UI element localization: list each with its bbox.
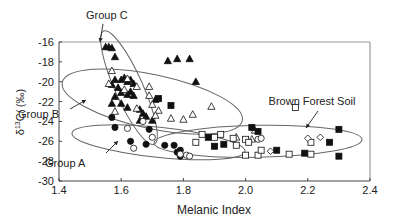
group-a-label: Group A	[45, 157, 86, 169]
open-circle-marker	[140, 118, 146, 124]
filled-triangle-marker	[108, 100, 115, 107]
open-triangle-marker	[167, 115, 174, 122]
scatter-chart: 1.41.61.82.02.22.4-16-18-20-22-24-26-28-…	[0, 0, 411, 224]
plot-frame	[59, 42, 370, 181]
open-circle-marker	[177, 151, 183, 157]
open-triangle-marker	[111, 108, 118, 115]
y-tick-label: -18	[38, 56, 54, 68]
axis-ticks: 1.41.61.82.02.22.4-16-18-20-22-24-26-28-…	[38, 36, 378, 196]
open-circle-marker	[187, 153, 193, 159]
y-tick-label: -20	[38, 76, 54, 88]
open-square-marker	[258, 147, 264, 153]
x-tick-label: 1.8	[176, 184, 191, 196]
filled-circle-marker	[109, 114, 115, 120]
filled-square-marker	[336, 153, 342, 159]
filled-triangle-marker	[174, 55, 181, 62]
open-diamond-marker	[317, 134, 324, 141]
filled-square-marker	[249, 124, 255, 130]
filled-square-marker	[168, 103, 174, 109]
open-circle-marker	[258, 135, 264, 141]
filled-circle-marker	[143, 141, 149, 147]
annotations: Group CGroup BGroup ABrown Forest Soil	[18, 9, 355, 169]
filled-triangle-marker	[124, 104, 131, 111]
x-tick-label: 1.6	[114, 184, 129, 196]
filled-square-marker	[255, 128, 261, 134]
filled-triangle-marker	[111, 53, 118, 60]
arrow-head-icon	[306, 123, 310, 128]
chart-canvas: 1.41.61.82.02.22.4-16-18-20-22-24-26-28-…	[0, 0, 411, 224]
open-triangle-marker	[189, 111, 196, 118]
x-axis-label: Melanic Index	[177, 203, 251, 217]
filled-circle-marker	[127, 138, 133, 144]
open-square-marker	[230, 135, 236, 141]
open-square-marker	[286, 151, 292, 157]
filled-square-marker	[212, 143, 218, 149]
open-circle-marker	[131, 145, 137, 151]
filled-triangle-marker	[186, 55, 193, 62]
svg-text:δ13C/ (‰): δ13C/ (‰)	[14, 89, 26, 135]
x-tick-label: 2.4	[362, 184, 377, 196]
filled-square-marker	[274, 147, 280, 153]
open-square-marker	[243, 152, 249, 158]
y-tick-label: -30	[38, 175, 54, 187]
open-square-marker	[193, 139, 199, 145]
filled-circle-marker	[112, 124, 118, 130]
group-a-ellipse	[70, 118, 246, 166]
group-c-label: Group C	[86, 9, 128, 21]
open-diamond-marker	[267, 148, 274, 155]
open-square-marker	[233, 142, 239, 148]
x-tick-label: 2.2	[300, 184, 315, 196]
y-tick-label: -16	[38, 36, 54, 48]
open-square-marker	[246, 139, 252, 145]
y-axis-label: δ13C/ (‰)	[14, 89, 26, 135]
filled-circle-marker	[171, 142, 177, 148]
open-triangle-marker	[208, 103, 215, 110]
filled-triangle-marker	[118, 100, 125, 107]
open-square-marker	[199, 131, 205, 137]
filled-square-marker	[156, 96, 162, 102]
filled-triangle-marker	[192, 78, 199, 85]
filled-square-marker	[336, 126, 342, 132]
filled-square-marker	[205, 134, 211, 140]
open-square-marker	[212, 134, 218, 140]
brown-forest-soil-label: Brown Forest Soil	[269, 95, 356, 107]
filled-square-marker	[327, 139, 333, 145]
open-triangle-marker	[180, 116, 187, 123]
open-square-marker	[218, 131, 224, 137]
open-circle-marker	[124, 125, 130, 131]
x-tick-label: 2.0	[238, 184, 253, 196]
y-tick-label: -26	[38, 135, 54, 147]
filled-square-marker	[302, 150, 308, 156]
open-triangle-marker	[108, 67, 115, 74]
filled-triangle-marker	[164, 57, 171, 64]
open-triangle-marker	[146, 83, 153, 90]
open-square-marker	[308, 151, 314, 157]
open-circle-marker	[149, 134, 155, 140]
filled-circle-marker	[162, 142, 168, 148]
filled-circle-marker	[146, 126, 152, 132]
y-tick-label: -22	[38, 96, 54, 108]
filled-square-marker	[221, 141, 227, 147]
